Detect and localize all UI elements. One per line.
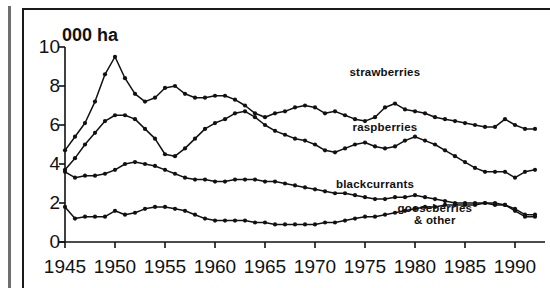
plot-area <box>0 0 550 288</box>
chart-figure: 000 ha 10 8 6 4 2 0 1945 1950 1955 1960 … <box>0 0 550 288</box>
